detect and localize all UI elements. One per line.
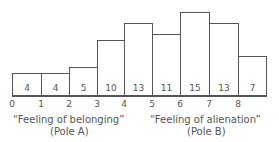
bar-value-label: 7 <box>239 83 266 93</box>
x-tick-label: 4 <box>114 99 134 109</box>
bar-value-label: 13 <box>210 83 238 93</box>
bar-value-label: 4 <box>13 83 41 93</box>
pole-a-label: “Feeling of belonging” <box>13 114 124 125</box>
histogram-bar: 4 <box>12 73 42 96</box>
histogram-bar: 10 <box>97 40 125 96</box>
x-tick-label: 8 <box>228 99 248 109</box>
histogram-bar: 5 <box>69 67 98 96</box>
histogram-bar: 15 <box>180 12 210 96</box>
pole-a-sublabel: (Pole A) <box>50 126 89 137</box>
bar-value-label: 11 <box>153 83 180 93</box>
bar-value-label: 4 <box>42 83 69 93</box>
x-tick-label: 2 <box>59 99 79 109</box>
histogram-bar: 13 <box>124 23 153 96</box>
histogram-bar: 11 <box>152 34 181 96</box>
histogram-bar: 7 <box>238 56 267 96</box>
bar-value-label: 13 <box>125 83 152 93</box>
pole-b-sublabel: (Pole B) <box>187 126 226 137</box>
x-axis-baseline <box>12 95 267 97</box>
x-tick-label: 7 <box>199 99 219 109</box>
pole-b-label: “Feeling of alienation” <box>150 114 261 125</box>
x-tick-label: 1 <box>31 99 51 109</box>
x-tick-label: 0 <box>2 99 22 109</box>
x-tick-label: 5 <box>142 99 162 109</box>
bar-value-label: 10 <box>98 83 124 93</box>
bar-value-label: 15 <box>181 83 209 93</box>
x-tick-label: 3 <box>87 99 107 109</box>
histogram-bar: 4 <box>41 73 70 96</box>
histogram-bar: 13 <box>209 23 239 96</box>
bar-value-label: 5 <box>70 83 97 93</box>
x-tick-label: 6 <box>170 99 190 109</box>
